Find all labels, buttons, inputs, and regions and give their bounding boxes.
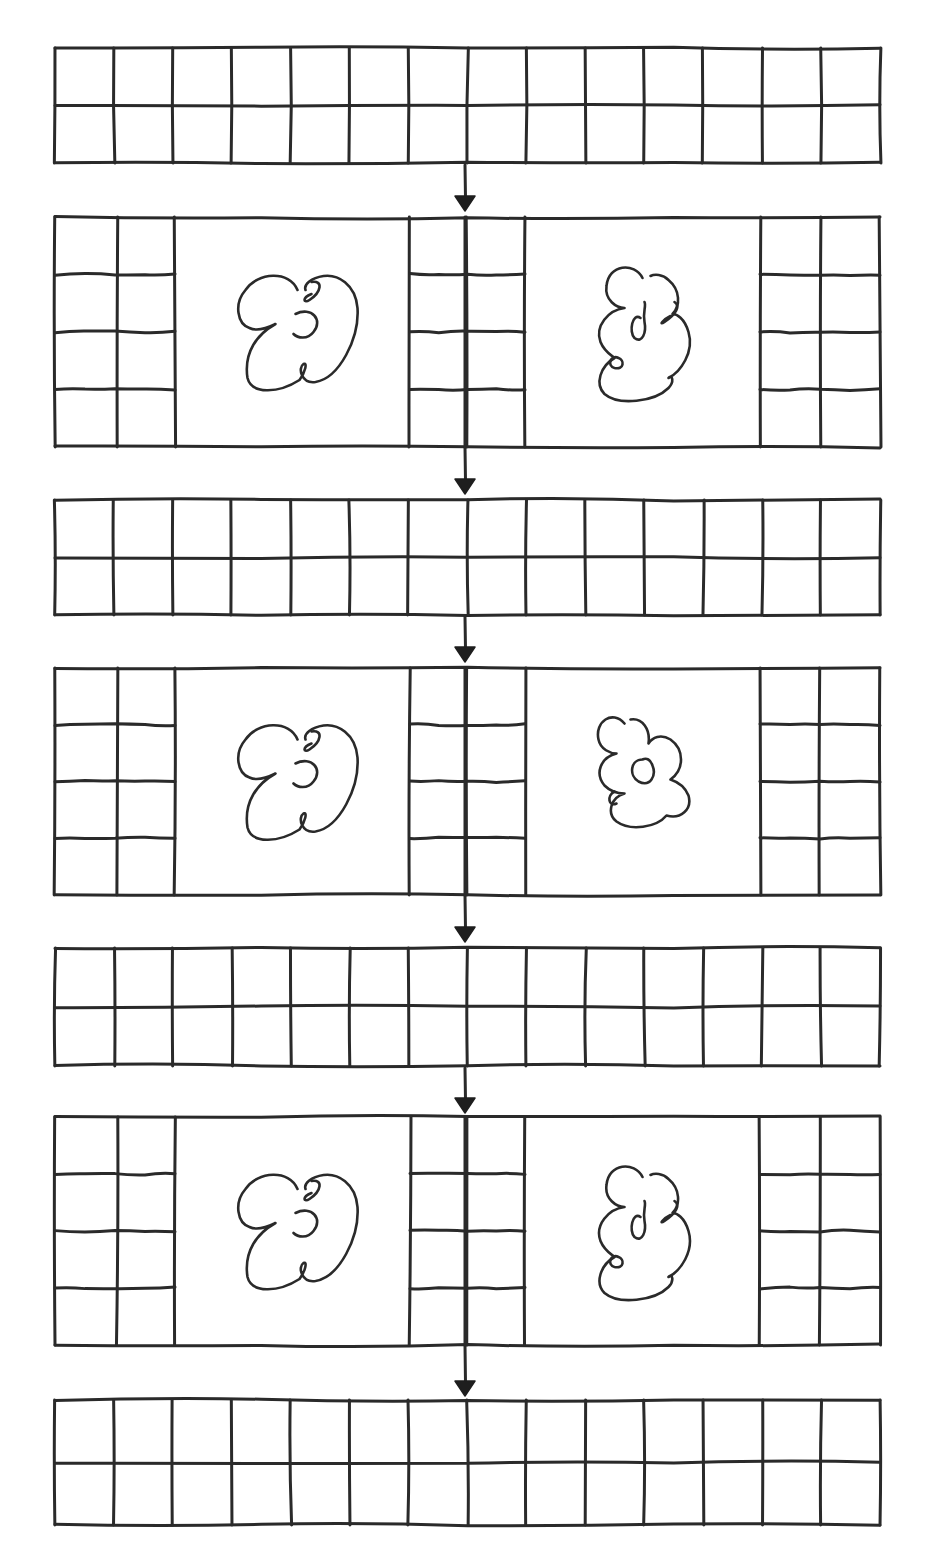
scribble-cloud-icon: [238, 725, 357, 840]
arrow-down-icon: [455, 617, 475, 662]
scribble-cloud-icon: [599, 1167, 690, 1301]
scribble-cloud-icon: [238, 276, 357, 391]
arrow-down-icon: [455, 895, 475, 942]
arrow-down-icon: [455, 1345, 475, 1396]
panel-band: [54, 667, 881, 896]
scribble-cloud-icon: [598, 717, 689, 827]
arrow-down-icon: [455, 447, 475, 494]
grid-flow-diagram: [0, 0, 931, 1563]
image-panel-right: [599, 268, 690, 402]
grid-band: [54, 498, 880, 615]
panel-band: [54, 217, 881, 448]
image-panel-right: [599, 1167, 690, 1301]
scribble-cloud-icon: [238, 1175, 357, 1290]
image-panel-left: [238, 276, 357, 391]
grid-band: [54, 47, 881, 164]
image-panel-left: [238, 1175, 357, 1290]
panel-band: [54, 1116, 880, 1347]
grid-band: [54, 1399, 880, 1526]
arrow-down-icon: [455, 165, 475, 211]
scribble-cloud-icon: [599, 268, 690, 402]
image-panel-left: [238, 725, 357, 840]
arrow-down-icon: [455, 1068, 475, 1113]
image-panel-right: [598, 717, 689, 827]
grid-band: [54, 947, 880, 1067]
